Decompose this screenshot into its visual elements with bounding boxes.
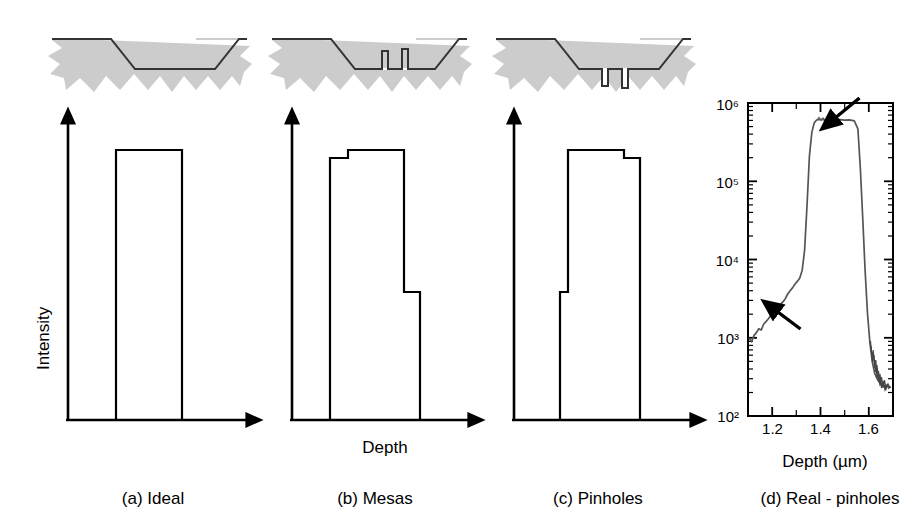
panel-a-curve [68,150,230,420]
panel-a-profile-plot [66,122,248,420]
crater-cross-section-ideal [48,38,252,92]
crater-substrate-pinholes [492,38,696,92]
depth-profile-curve [749,119,890,387]
y-tick-label-1e3: 10³ [693,330,739,347]
panel-c-curve [514,150,676,420]
panel-c-profile-plot [512,122,692,420]
x-tick-label-1-2: 1.2 [752,420,793,437]
figure-root: Intensity Depth Depth (µm) 10⁶ 10⁵ 10⁴ 1… [0,0,920,531]
x-tick-label-1-4: 1.4 [800,420,841,437]
y-axis-label-intensity: Intensity [34,307,54,370]
y-major-ticks [748,103,893,416]
x-major-ticks [772,103,869,416]
crater-substrate-ideal [48,38,252,92]
x-axis-label-depth-microns: Depth (µm) [760,452,890,472]
pinhole-notch-left [603,69,607,85]
annotation-arrow-shoulder [777,311,801,329]
y-tick-label-1e6: 10⁶ [693,96,739,113]
annotation-arrow-plateau [835,98,860,119]
panel-caption-a: (a) Ideal [78,489,228,509]
crater-substrate-mesas [268,38,472,92]
pinhole-notch-right [623,69,627,87]
panel-b-curve [292,150,452,420]
mesa-pillar-left [383,52,387,68]
panel-caption-c: (c) Pinholes [518,489,678,509]
y-tick-label-1e2: 10² [693,408,739,425]
panel-b-profile-plot [290,122,470,420]
mesa-pillar-right [403,50,407,68]
x-tick-label-1-6: 1.6 [848,420,889,437]
panel-caption-b: (b) Mesas [300,489,450,509]
panel-d-data-plot [748,98,893,416]
crater-cross-section-mesas [268,38,472,92]
y-tick-label-1e4: 10⁴ [693,252,739,269]
y-tick-label-1e5: 10⁵ [693,174,739,191]
crater-cross-section-pinholes [492,38,696,92]
x-axis-label-depth: Depth [330,438,440,458]
panel-caption-d: (d) Real - pinholes [740,489,920,509]
plot-frame [748,103,893,416]
